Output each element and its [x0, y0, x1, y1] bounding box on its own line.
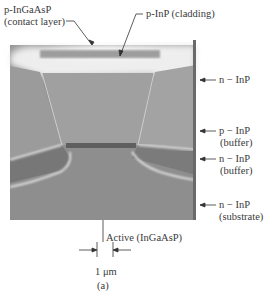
label-cladding: p-InP (cladding)	[146, 8, 215, 20]
label-n-inp-buffer-line2: (buffer)	[219, 165, 252, 177]
label-n-inp-substrate-line2: (substrate)	[219, 211, 263, 223]
label-active: Active (InGaAsP)	[106, 232, 182, 244]
label-contact-layer: p-InGaAsP (contact layer)	[4, 4, 65, 28]
label-p-inp-buffer: p − InP (buffer)	[219, 125, 252, 149]
label-n-inp-buffer-line1: n − InP	[219, 153, 252, 165]
sem-micrograph	[0, 0, 270, 299]
active-region	[66, 143, 136, 148]
contact-layer-band	[40, 50, 160, 58]
label-n-inp-substrate: n − InP (substrate)	[219, 199, 263, 223]
label-n-inp: n − InP	[219, 74, 250, 86]
label-n-inp-buffer: n − InP (buffer)	[219, 153, 252, 177]
label-contact-layer-line1: p-InGaAsP	[4, 4, 65, 16]
figure-caption: (a)	[97, 280, 109, 292]
label-n-inp-substrate-line1: n − InP	[219, 199, 263, 211]
label-contact-layer-line2: (contact layer)	[4, 16, 65, 28]
scale-bar-label: 1 μm	[95, 266, 117, 278]
label-p-inp-buffer-line2: (buffer)	[219, 137, 252, 149]
label-p-inp-buffer-line1: p − InP	[219, 125, 252, 137]
